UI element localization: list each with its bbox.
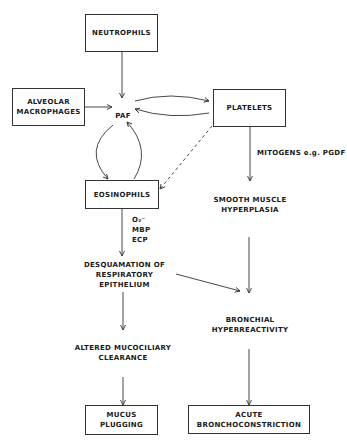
eosinophil-products-label: O₂⁻ MBP ECP (132, 215, 162, 245)
edge-eosinophils-paf (127, 122, 142, 179)
platelets-label: PLATELETS (227, 103, 273, 113)
node-acute-bronchoconstriction: ACUTE BRONCHOCONSTRICTION (188, 405, 310, 434)
edge-paf-platelets (135, 96, 209, 101)
node-eosinophils: EOSINOPHILS (85, 180, 159, 209)
smooth-muscle-label: SMOOTH MUSCLE HYPERPLASIA (200, 195, 300, 215)
edge-desquamation-bronchial (176, 274, 240, 291)
desquamation-label: DESQUAMATION OF RESPIRATORY EPITHELIUM (72, 260, 177, 290)
bronchial-hyperreactivity-label: BRONCHIAL HYPERREACTIVITY (205, 315, 295, 335)
edge-paf-eosinophils (96, 125, 113, 179)
altered-mucociliary-label: ALTERED MUCOCILIARY CLEARANCE (68, 343, 178, 363)
alveolar-macrophages-label: ALVEOLAR MACROPHAGES (16, 97, 80, 117)
eosinophils-label: EOSINOPHILS (94, 190, 151, 200)
node-platelets: PLATELETS (213, 89, 286, 127)
node-alveolar-macrophages: ALVEOLAR MACROPHAGES (12, 88, 85, 126)
mucus-plugging-label: MUCUS PLUGGING (100, 410, 143, 430)
node-neutrophils: NEUTROPHILS (85, 14, 158, 52)
mitogens-label: MITOGENS e.g. PGDF (257, 148, 347, 158)
paf-label: PAF (110, 111, 136, 121)
acute-bronchoconstriction-label: ACUTE BRONCHOCONSTRICTION (197, 410, 301, 430)
edge-platelets-paf (135, 109, 209, 116)
node-mucus-plugging: MUCUS PLUGGING (85, 405, 158, 435)
diagram-edges (0, 0, 347, 441)
neutrophils-label: NEUTROPHILS (92, 28, 151, 38)
edge-platelets-eosinophils (160, 126, 212, 189)
